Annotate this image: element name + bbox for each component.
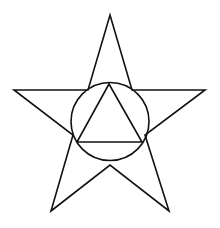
diagram-canvas xyxy=(0,0,220,228)
inscribed-circle xyxy=(71,83,149,161)
five-pointed-star xyxy=(14,15,205,211)
inscribed-triangle xyxy=(77,84,142,142)
geometry-figure xyxy=(0,0,220,228)
